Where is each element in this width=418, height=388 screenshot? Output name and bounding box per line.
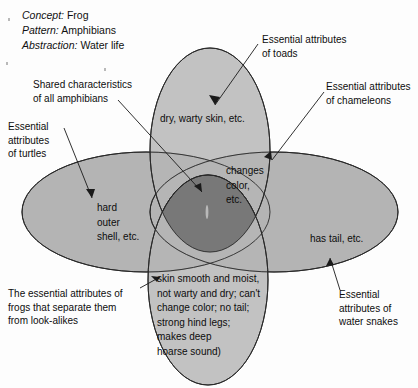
- leader-chameleons: [272, 92, 324, 160]
- callout-shared-characteristics: Shared characteristics of all amphibians: [33, 78, 132, 105]
- callout-toads: Essential attributes of toads: [262, 33, 347, 60]
- inner-label-water-snakes: has tail, etc.: [310, 232, 363, 247]
- lens-highlight: [206, 205, 209, 219]
- inner-label-chameleons: changes color, etc.: [226, 164, 264, 208]
- callout-chameleons: Essential attributes of chameleons: [326, 80, 411, 107]
- venn-diagram-figure: Concept: Frog Pattern: Amphibians Abstra…: [0, 0, 418, 388]
- inner-label-turtles: hard outer shell, etc.: [97, 201, 139, 245]
- callout-frogs: The essential attributes of frogs that s…: [8, 287, 123, 328]
- inner-label-frogs: skin smooth and moist, not warty and dry…: [157, 272, 260, 359]
- callout-water-snakes: Essential attributes of water snakes: [339, 288, 398, 329]
- callout-turtles: Essential attributes of turtles: [8, 120, 49, 161]
- inner-label-toads: dry, warty skin, etc.: [160, 112, 245, 127]
